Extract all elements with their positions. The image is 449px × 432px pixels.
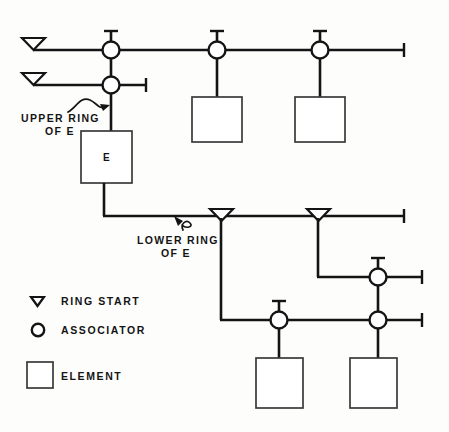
associator-r2-c1: [103, 77, 120, 94]
legend-associator-icon: [32, 324, 44, 336]
associator-r1-c3-branch: [312, 31, 329, 97]
ring-structure-diagram: UPPER RING OF E LOWER RING OF E E RING S…: [0, 0, 449, 432]
element-box-bottom-1: [256, 358, 303, 408]
diagram-canvas: [0, 0, 449, 432]
upper-ring-label-line2: OF E: [45, 125, 75, 138]
legend-element-icon: [27, 362, 53, 388]
upper-ring-leader-line: [68, 99, 110, 112]
ring-start-lower-1-icon: [210, 209, 233, 320]
element-box-top-2: [192, 97, 242, 142]
legend-ring-start-icon: [31, 297, 44, 306]
associator-r1-c2-branch: [209, 31, 226, 97]
legend-label-ring-start: RING START: [61, 295, 140, 307]
legend-label-element: ELEMENT: [61, 370, 122, 382]
element-box-bottom-2: [350, 358, 397, 408]
element-box-top-3: [295, 97, 345, 142]
legend-label-associator: ASSOCIATOR: [61, 324, 146, 336]
lower-ring-leader-line: [174, 216, 191, 230]
lower-ring-label-line2: OF E: [161, 247, 191, 260]
lower-bus-y320: [220, 313, 422, 327]
element-box-e-label: E: [103, 152, 110, 163]
associator-r1-c1: [103, 42, 120, 59]
lower-ring-path: [103, 183, 404, 223]
upper-ring-label-line1: UPPER RING: [21, 112, 100, 125]
ring-start-upper-1-icon: [22, 38, 45, 50]
upper-ring-2-bus: [33, 78, 146, 92]
lower-ring-label-line1: LOWER RING: [137, 234, 219, 247]
trunk-vertical-x279: [271, 301, 288, 358]
ring-start-upper-2-icon: [22, 73, 45, 85]
trunk-vertical-x378: [370, 258, 387, 358]
